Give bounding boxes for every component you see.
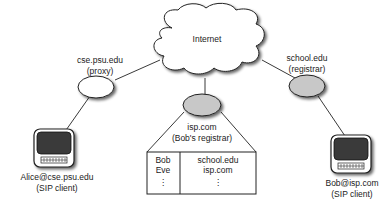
bob-name: Bob@isp.com xyxy=(325,178,378,188)
isp-ellipse xyxy=(183,94,221,116)
computer-icon xyxy=(34,129,74,167)
alice-name: Alice@cse.psu.edu xyxy=(21,172,94,182)
internet-cloud: Internet xyxy=(154,3,264,74)
table-domain: school.edu xyxy=(197,155,238,165)
proxy-node: cse.psu.edu (proxy) xyxy=(77,55,123,98)
line-isp-table-left xyxy=(147,112,184,152)
table-user: Eve xyxy=(156,165,171,175)
proxy-name: cse.psu.edu xyxy=(77,55,123,65)
school-role: (registrar) xyxy=(289,64,326,74)
proxy-role: (proxy) xyxy=(87,66,114,76)
computer-icon xyxy=(331,135,371,173)
registrar-table: Bob Eve ⋮ school.edu isp.com ⋮ xyxy=(147,152,256,194)
proxy-ellipse xyxy=(78,76,114,98)
table-user: Bob xyxy=(155,155,170,165)
school-registrar-node: school.edu (registrar) xyxy=(286,53,327,97)
isp-name: isp.com xyxy=(187,122,216,132)
sip-diagram: Internet cse.psu.edu (proxy) school.edu … xyxy=(0,0,392,206)
bob-client: Bob@isp.com (SIP client) xyxy=(325,135,378,199)
table-domain: isp.com xyxy=(203,165,232,175)
line-isp-table-right xyxy=(221,112,256,152)
isp-role: (Bob's registrar) xyxy=(172,133,232,143)
alice-client: Alice@cse.psu.edu (SIP client) xyxy=(21,129,94,193)
alice-role: (SIP client) xyxy=(36,183,78,193)
internet-label: Internet xyxy=(193,34,222,44)
table-domain-ellipsis: ⋮ xyxy=(214,177,223,187)
bob-role: (SIP client) xyxy=(331,189,373,199)
table-user-ellipsis: ⋮ xyxy=(159,177,168,187)
isp-registrar-node: isp.com (Bob's registrar) xyxy=(172,94,232,143)
school-name: school.edu xyxy=(286,53,327,63)
line-proxy-alice xyxy=(64,96,90,133)
school-ellipse xyxy=(289,75,325,97)
line-school-bob xyxy=(318,96,345,136)
